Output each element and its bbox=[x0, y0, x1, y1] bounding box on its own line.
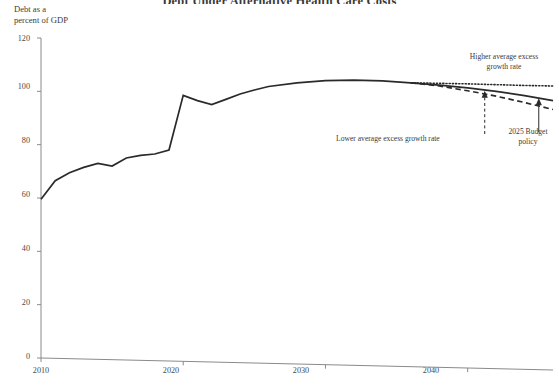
chart-figure: Debt Under Alternative Health Care Costs… bbox=[0, 0, 559, 385]
series-line-baseline bbox=[41, 80, 553, 199]
x-axis-ticks bbox=[41, 358, 468, 372]
data-series-group bbox=[41, 80, 553, 199]
plot-canvas bbox=[0, 0, 559, 385]
y-axis-ticks bbox=[37, 38, 41, 358]
x-axis-line bbox=[41, 358, 553, 370]
